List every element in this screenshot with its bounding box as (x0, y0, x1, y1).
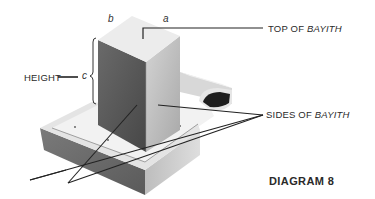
bayith-pillar (98, 16, 180, 152)
diagram-title: DIAGRAM 8 (269, 176, 334, 187)
variable-b-label: b (108, 14, 114, 24)
diagram-canvas: b a c HEIGHT TOP OF BAYITH SIDES OF BAYI… (0, 0, 375, 199)
sides-of-bayith-label: SIDES OF BAYITH (266, 110, 350, 120)
top-label-emphasis: BAYITH (307, 23, 342, 34)
rear-platform (180, 72, 232, 110)
height-label: HEIGHT (24, 73, 61, 83)
top-label-prefix: TOP OF (268, 23, 307, 34)
height-bracket (90, 38, 96, 104)
sides-label-prefix: SIDES OF (266, 109, 315, 120)
variable-a-label: a (163, 14, 169, 24)
sides-label-emphasis: BAYITH (315, 109, 350, 120)
top-of-bayith-label: TOP OF BAYITH (268, 24, 342, 34)
variable-c-label: c (82, 71, 87, 81)
